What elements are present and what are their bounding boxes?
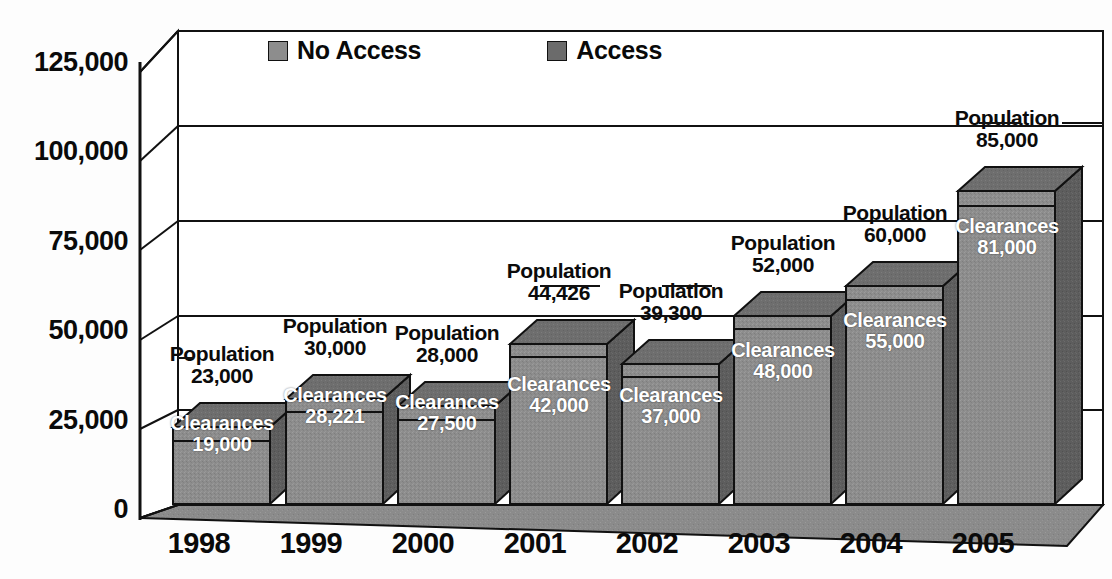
clearances-label-2001: Clearances 42,000 <box>503 374 615 416</box>
y-tick-50000: 50,000 <box>0 315 128 346</box>
bar-front-2001 <box>510 344 607 504</box>
clearances-word-1998: Clearances <box>166 413 278 434</box>
clearances-label-2002: Clearances 37,000 <box>615 385 727 427</box>
chart-figure: No Access Access 125,000 100,000 75,000 … <box>0 0 1112 579</box>
population-word-2005: Population <box>932 107 1082 129</box>
clearances-label-2004: Clearances 55,000 <box>839 310 951 352</box>
legend-label-no-access: No Access <box>297 36 421 65</box>
leader-line-1998 <box>178 357 194 359</box>
population-value-1998: 23,000 <box>147 365 297 387</box>
clearances-value-2004: 55,000 <box>839 331 951 352</box>
x-tick-2001: 2001 <box>476 527 594 560</box>
y-tick-25000: 25,000 <box>0 405 128 436</box>
clearances-word-2004: Clearances <box>839 310 951 331</box>
chart-legend: No Access Access <box>268 36 662 65</box>
x-tick-2005: 2005 <box>924 527 1042 560</box>
legend-label-access: Access <box>576 36 662 65</box>
leader-line-2001-left <box>540 285 600 287</box>
clearances-label-2000: Clearances 27,500 <box>391 392 503 434</box>
population-word-2004: Population <box>820 202 970 224</box>
y-tick-125000: 125,000 <box>0 47 128 78</box>
population-word-2001: Population <box>484 260 634 282</box>
population-word-2000: Population <box>372 322 522 344</box>
clearances-word-2003: Clearances <box>727 340 839 361</box>
leader-line-2005-left <box>979 122 1021 124</box>
population-value-2000: 28,000 <box>372 344 522 366</box>
clearances-word-2005: Clearances <box>951 216 1063 237</box>
clearances-value-2001: 42,000 <box>503 395 615 416</box>
population-value-2002: 39,300 <box>596 302 746 324</box>
population-label-2004: Population 60,000 <box>820 202 970 245</box>
y-tick-100000: 100,000 <box>0 136 128 167</box>
legend-swatch-no-access <box>268 41 288 61</box>
clearances-word-1999: Clearances <box>279 385 391 406</box>
clearances-label-2003: Clearances 48,000 <box>727 340 839 382</box>
leader-line-2001-right <box>662 285 712 287</box>
clearances-value-2005: 81,000 <box>951 237 1063 258</box>
clearances-label-1999: Clearances 28,221 <box>279 385 391 427</box>
clearances-value-2000: 27,500 <box>391 413 503 434</box>
x-tick-1998: 1998 <box>140 527 258 560</box>
x-tick-1999: 1999 <box>252 527 370 560</box>
clearances-label-1998: Clearances 19,000 <box>166 413 278 455</box>
y-tick-75000: 75,000 <box>0 226 128 257</box>
legend-item-no-access[interactable]: No Access <box>268 36 421 65</box>
legend-swatch-access <box>547 41 567 61</box>
clearances-value-2002: 37,000 <box>615 406 727 427</box>
population-value-2004: 60,000 <box>820 224 970 246</box>
clearances-value-1998: 19,000 <box>166 434 278 455</box>
population-value-2005: 85,000 <box>932 129 1082 151</box>
population-label-2005: Population 85,000 <box>932 107 1082 150</box>
clearances-value-1999: 28,221 <box>279 406 391 427</box>
clearances-word-2002: Clearances <box>615 385 727 406</box>
x-tick-2003: 2003 <box>700 527 818 560</box>
population-word-2002: Population <box>596 280 746 302</box>
legend-item-access[interactable]: Access <box>547 36 662 65</box>
x-tick-2004: 2004 <box>812 527 930 560</box>
bar-group-2004 <box>846 262 970 504</box>
population-label-2000: Population 28,000 <box>372 322 522 365</box>
x-tick-2002: 2002 <box>588 527 706 560</box>
x-tick-2000: 2000 <box>364 527 482 560</box>
population-value-2003: 52,000 <box>708 254 858 276</box>
clearances-label-2005: Clearances 81,000 <box>951 216 1063 258</box>
leader-line-2005-right <box>1062 122 1104 124</box>
clearances-word-2001: Clearances <box>503 374 615 395</box>
clearances-value-2003: 48,000 <box>727 361 839 382</box>
clearances-word-2000: Clearances <box>391 392 503 413</box>
y-tick-0: 0 <box>0 494 128 525</box>
